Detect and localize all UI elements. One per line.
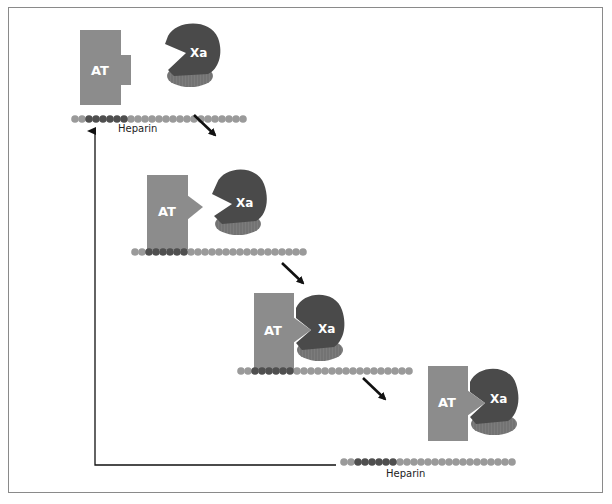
step-arrow-3 xyxy=(363,378,385,399)
at-label: AT xyxy=(158,204,176,219)
at-label: AT xyxy=(438,395,456,410)
xa-label: Xa xyxy=(490,392,507,406)
stage-2: AT Xa xyxy=(131,170,307,256)
at-label: AT xyxy=(91,63,109,78)
heparin-chain xyxy=(237,367,413,375)
xa-label: Xa xyxy=(236,196,253,210)
factor-xa-shape: Xa xyxy=(212,170,267,235)
stage-1: AT Xa Heparin xyxy=(71,24,247,135)
step-arrow-2 xyxy=(282,263,303,283)
factor-xa-shape: Xa xyxy=(165,24,220,88)
stage-3: Xa AT xyxy=(237,293,413,375)
heparin-label: Heparin xyxy=(118,123,157,134)
antithrombin-shape: AT xyxy=(80,30,131,105)
recycle-arrow xyxy=(95,131,336,465)
xa-label: Xa xyxy=(190,46,207,60)
heparin-chain: Heparin xyxy=(71,115,247,134)
heparin-antithrombin-diagram: AT Xa Heparin AT Xa xyxy=(0,0,612,504)
heparin-chain: Heparin xyxy=(340,458,516,479)
antithrombin-shape: AT xyxy=(147,175,203,250)
heparin-label: Heparin xyxy=(386,468,425,479)
xa-label: Xa xyxy=(318,322,335,336)
at-label: AT xyxy=(264,323,282,338)
heparin-chain xyxy=(131,248,307,256)
